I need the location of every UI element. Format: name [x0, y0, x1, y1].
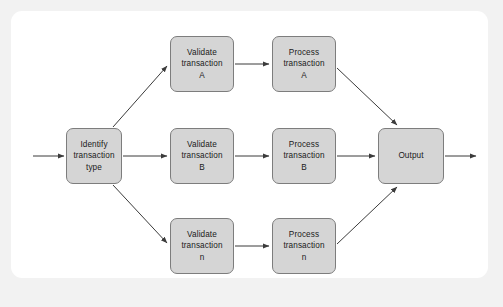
node-process-transaction-n[interactable]: Process transaction n [272, 218, 336, 274]
node-process-a-line1: Process [289, 47, 319, 58]
node-validate-a-line2: transaction [181, 58, 222, 69]
node-process-b-line3: B [301, 162, 307, 173]
node-identify-line3: type [86, 162, 102, 173]
node-validate-n-line2: transaction [181, 240, 222, 251]
node-validate-b-line3: B [199, 162, 205, 173]
node-identify-line2: transaction [73, 150, 114, 161]
node-validate-b-line2: transaction [181, 150, 222, 161]
node-process-a-line3: A [301, 70, 307, 81]
node-output-label: Output [398, 150, 423, 161]
figure-container: Identify transaction type Validate trans… [0, 0, 503, 307]
node-validate-transaction-b[interactable]: Validate transaction B [170, 128, 234, 184]
node-process-n-line3: n [302, 252, 307, 263]
node-process-transaction-b[interactable]: Process transaction B [272, 128, 336, 184]
node-process-n-line1: Process [289, 229, 319, 240]
node-validate-transaction-n[interactable]: Validate transaction n [170, 218, 234, 274]
node-validate-b-line1: Validate [187, 139, 217, 150]
node-validate-n-line3: n [200, 252, 205, 263]
edge-identify-to-validate-n [113, 185, 167, 243]
edge-process-n-to-output [337, 187, 397, 244]
node-validate-a-line1: Validate [187, 47, 217, 58]
node-process-a-line2: transaction [283, 58, 324, 69]
node-identify-line1: Identify [80, 139, 107, 150]
node-process-transaction-a[interactable]: Process transaction A [272, 36, 336, 92]
node-validate-n-line1: Validate [187, 229, 217, 240]
node-validate-transaction-a[interactable]: Validate transaction A [170, 36, 234, 92]
edge-process-a-to-output [337, 68, 397, 125]
edge-identify-to-validate-a [113, 66, 167, 127]
node-output[interactable]: Output [378, 128, 444, 184]
node-identify-transaction-type[interactable]: Identify transaction type [66, 128, 122, 184]
node-process-b-line2: transaction [283, 150, 324, 161]
node-validate-a-line3: A [199, 70, 205, 81]
node-process-b-line1: Process [289, 139, 319, 150]
node-process-n-line2: transaction [283, 240, 324, 251]
